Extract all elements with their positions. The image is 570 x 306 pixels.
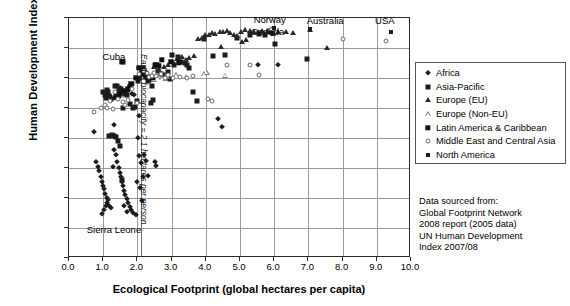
gridline-vertical <box>308 18 309 256</box>
x-tick-label: 4.0 <box>190 262 220 272</box>
source-note: Data sourced from:Global Footprint Netwo… <box>419 196 522 254</box>
x-tick-mark <box>102 257 103 261</box>
data-point <box>151 70 156 75</box>
data-point <box>272 41 277 46</box>
x-tick-mark <box>410 257 411 261</box>
data-point <box>115 97 120 102</box>
data-point <box>171 76 176 81</box>
data-point <box>222 52 227 57</box>
x-axis-title: Ecological Footprint (global hectares pe… <box>68 283 410 295</box>
annotation-usa: USA <box>375 16 395 26</box>
legend-item-label: Africa <box>436 69 460 78</box>
data-point <box>256 73 261 78</box>
marker-glyph <box>425 97 431 102</box>
gridline-horizontal <box>69 198 409 199</box>
legend-item-latin-america-caribbean[interactable]: Latin America & Caribbean <box>422 121 565 135</box>
x-tick-label: 5.0 <box>224 262 254 272</box>
data-point <box>159 57 164 62</box>
data-point <box>218 44 224 49</box>
legend-item-europe-eu[interactable]: Europe (EU) <box>422 94 565 108</box>
x-tick-mark <box>205 257 206 261</box>
data-point <box>215 115 221 121</box>
source-note-line: UN Human Development <box>419 231 522 243</box>
data-point <box>190 73 195 78</box>
source-note-line: Data sourced from: <box>419 196 522 208</box>
data-point <box>105 106 110 111</box>
x-tick-label: 2.0 <box>121 262 151 272</box>
data-point <box>185 76 190 81</box>
data-point <box>187 65 192 70</box>
x-tick-label: 10.0 <box>395 262 425 272</box>
legend-item-label: Europe (EU) <box>436 96 488 105</box>
data-point <box>204 70 210 75</box>
legend-marker-icon <box>422 94 435 107</box>
data-point <box>389 30 393 34</box>
legend-marker-icon <box>422 122 435 135</box>
data-point <box>115 139 120 144</box>
marker-glyph <box>426 139 431 144</box>
x-tick-label: 3.0 <box>156 262 186 272</box>
x-tick-mark <box>239 257 240 261</box>
x-tick-mark <box>136 257 137 261</box>
legend-item-label: Middle East and Central Asia <box>436 137 555 146</box>
legend-item-africa[interactable]: Africa <box>422 67 565 81</box>
gridline-horizontal <box>69 78 409 79</box>
marker-glyph <box>426 84 431 89</box>
legend-item-middle-east-and-central-asia[interactable]: Middle East and Central Asia <box>422 135 565 149</box>
data-point <box>219 123 225 129</box>
x-tick-mark <box>342 257 343 261</box>
gridline-vertical <box>240 18 241 256</box>
data-point <box>113 89 118 94</box>
data-point <box>225 63 230 68</box>
data-point <box>108 98 113 103</box>
data-point <box>210 99 215 104</box>
data-point <box>107 133 112 138</box>
legend-item-label: Europe (Non-EU) <box>436 110 508 119</box>
source-note-line: Index 2007/08 <box>419 242 522 254</box>
gridline-vertical <box>274 18 275 256</box>
annotation-canada: Canada <box>251 27 284 37</box>
data-point <box>211 53 216 58</box>
scatter-chart: Human Development Index Ecological Footp… <box>0 0 570 306</box>
gridline-vertical <box>377 18 378 256</box>
data-point <box>120 178 125 183</box>
annotation-cuba: Cuba <box>103 52 126 62</box>
data-point <box>341 37 346 42</box>
data-point <box>247 63 252 68</box>
data-point <box>133 75 138 80</box>
data-point <box>178 74 183 79</box>
data-point <box>168 59 173 64</box>
marker-glyph <box>426 153 430 157</box>
data-point <box>123 103 128 108</box>
annotation-sierra-leone: Sierra Leone <box>87 225 141 235</box>
data-point <box>110 121 116 127</box>
legend-item-north-america[interactable]: North America <box>422 149 565 163</box>
legend-marker-icon <box>422 149 435 162</box>
data-point <box>255 61 261 67</box>
data-point <box>91 109 96 114</box>
gridline-vertical <box>343 18 344 256</box>
data-point <box>308 27 312 31</box>
annotation-australia: Australia <box>307 16 344 26</box>
data-point <box>190 89 195 94</box>
legend-item-asia-pacific[interactable]: Asia-Pacific <box>422 81 565 95</box>
x-tick-mark <box>171 257 172 261</box>
data-point <box>125 97 130 102</box>
plot-area: CubaSierra LeoneNorwayCanadaAustraliaUSA… <box>68 17 410 257</box>
data-point <box>113 151 119 157</box>
legend-marker-icon <box>422 135 435 148</box>
source-note-line: Global Footprint Network <box>419 208 522 220</box>
data-point <box>243 37 249 42</box>
data-point <box>290 30 296 35</box>
gridline-vertical <box>206 18 207 256</box>
x-tick-mark <box>376 257 377 261</box>
data-point <box>324 45 330 50</box>
legend-item-europe-non-eu[interactable]: Europe (Non-EU) <box>422 108 565 122</box>
data-point <box>122 88 127 93</box>
y-axis-title: Human Development Index <box>27 0 39 154</box>
legend-marker-icon <box>422 108 435 121</box>
legend-marker-icon <box>422 81 435 94</box>
legend-item-label: Asia-Pacific <box>436 83 485 92</box>
x-tick-label: 0.0 <box>53 262 83 272</box>
biocapacity-annotation: Earth's biocapacity = 2.1 hectares per p… <box>139 54 149 225</box>
